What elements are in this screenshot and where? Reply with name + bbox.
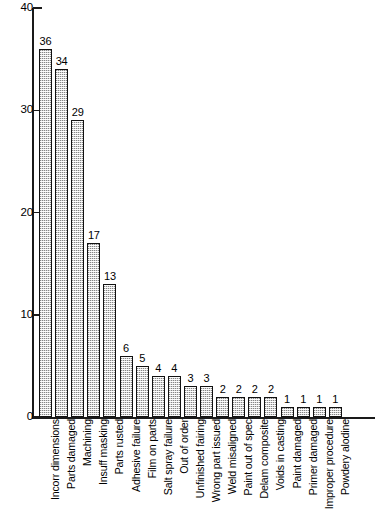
x-axis-category-label-text: Paint out of spec: [243, 419, 254, 498]
x-axis-category-label-text: Incorr dimensions: [50, 419, 61, 503]
bar-group[interactable]: 4: [152, 358, 165, 417]
x-axis-category-label-text: Primer damaged: [308, 419, 319, 498]
bar-value-label: 3: [204, 373, 210, 384]
pareto-bar-chart: 010203040 363429171365443322221111 Incor…: [0, 0, 381, 524]
bar-group[interactable]: 2: [216, 379, 229, 417]
bar[interactable]: [55, 69, 68, 417]
bar-value-label: 4: [155, 363, 161, 374]
x-axis-category-label: Out of order: [179, 419, 190, 477]
x-axis-category-label-text: Wrong part issued: [211, 419, 222, 505]
x-axis-category-label: Film on parts: [147, 419, 158, 481]
x-axis-category-label-text: Parts rusted: [114, 419, 125, 477]
bar-group[interactable]: 36: [39, 31, 52, 417]
x-axis-category-label: Delam composite: [259, 419, 270, 502]
bar[interactable]: [120, 356, 133, 417]
plot-area: 363429171365443322221111: [0, 0, 381, 418]
bar-value-label: 34: [56, 56, 68, 67]
bar[interactable]: [313, 407, 326, 417]
x-axis-category-label: Wrong part issued: [211, 419, 222, 505]
bar-value-label: 2: [268, 384, 274, 395]
x-axis-category-label-text: Delam composite: [259, 419, 270, 502]
bar[interactable]: [281, 407, 294, 417]
bar[interactable]: [71, 120, 84, 417]
bar-value-label: 3: [187, 373, 193, 384]
x-axis-category-label-text: Insuff masking: [98, 419, 109, 488]
bar-value-label: 2: [236, 384, 242, 395]
x-axis-category-label-text: Film on parts: [147, 419, 158, 481]
bar-group[interactable]: 3: [184, 368, 197, 417]
x-axis-category-label: Paint damaged: [292, 419, 303, 491]
x-axis-category-label-text: Improper procedure: [324, 419, 335, 512]
bar-value-label: 1: [284, 394, 290, 405]
x-axis-category-label: Adhesive failure: [131, 419, 142, 495]
bar[interactable]: [136, 366, 149, 417]
x-axis-category-label-text: Parts damaged: [66, 419, 77, 492]
bar-group[interactable]: 1: [313, 389, 326, 417]
bar-group[interactable]: 6: [120, 338, 133, 417]
x-axis-category-label: Voids in casting: [275, 419, 286, 493]
bar-value-label: 2: [252, 384, 258, 395]
x-axis-category-label-text: Powdery alodine: [340, 419, 351, 498]
bar-group[interactable]: 13: [103, 266, 116, 417]
bar[interactable]: [168, 376, 181, 417]
bar-value-label: 1: [316, 394, 322, 405]
bar[interactable]: [248, 397, 261, 417]
bar-group[interactable]: 1: [281, 389, 294, 417]
x-axis-category-label-text: Paint damaged: [292, 419, 303, 491]
x-axis-category-label: Parts damaged: [66, 419, 77, 492]
bar-group[interactable]: 2: [232, 379, 245, 417]
x-axis-category-label-text: Weld misaligned: [227, 419, 238, 497]
x-axis-category-label: Unfinished fairing: [195, 419, 206, 501]
x-axis-category-label: Powdery alodine: [340, 419, 351, 498]
x-axis-category-label-text: Salt spray failure: [163, 419, 174, 498]
bar-group[interactable]: 29: [71, 102, 84, 417]
bar[interactable]: [87, 243, 100, 417]
bar-value-label: 36: [40, 36, 52, 47]
bar-group[interactable]: 4: [168, 358, 181, 417]
bar-group[interactable]: 17: [87, 225, 100, 417]
bar-group[interactable]: 5: [136, 348, 149, 417]
x-axis-category-label: Salt spray failure: [163, 419, 174, 498]
x-axis-category-label: Weld misaligned: [227, 419, 238, 497]
bar-value-label: 6: [123, 343, 129, 354]
x-axis-category-label: Machining: [82, 419, 93, 469]
x-axis-category-label: Insuff masking: [98, 419, 109, 488]
bar[interactable]: [232, 397, 245, 417]
x-axis-category-label-text: Adhesive failure: [131, 419, 142, 495]
bar[interactable]: [103, 284, 116, 417]
bar-group[interactable]: 3: [200, 368, 213, 417]
x-axis-category-label-text: Unfinished fairing: [195, 419, 206, 501]
bar[interactable]: [329, 407, 342, 417]
bar[interactable]: [216, 397, 229, 417]
bar-value-label: 1: [300, 394, 306, 405]
bar-group[interactable]: 2: [248, 379, 261, 417]
bar-value-label: 17: [88, 230, 100, 241]
bar-value-label: 13: [104, 271, 116, 282]
bar[interactable]: [297, 407, 310, 417]
bar[interactable]: [264, 397, 277, 417]
bar[interactable]: [200, 386, 213, 417]
bar-value-label: 5: [139, 353, 145, 364]
bar-group[interactable]: 1: [297, 389, 310, 417]
bar-value-label: 29: [72, 107, 84, 118]
x-axis-category-label-text: Out of order: [179, 419, 190, 477]
bar-value-label: 2: [220, 384, 226, 395]
x-axis-category-label-text: Voids in casting: [275, 419, 286, 493]
bar[interactable]: [39, 49, 52, 417]
x-axis-category-label: Paint out of spec: [243, 419, 254, 498]
bar-value-label: 1: [332, 394, 338, 405]
x-axis-category-label: Parts rusted: [114, 419, 125, 477]
x-axis-category-label: Primer damaged: [308, 419, 319, 498]
bar-value-label: 4: [171, 363, 177, 374]
bar[interactable]: [152, 376, 165, 417]
bar-group[interactable]: 1: [329, 389, 342, 417]
x-axis-category-label: Incorr dimensions: [50, 419, 61, 503]
bar-group[interactable]: 34: [55, 51, 68, 417]
bar-group[interactable]: 2: [264, 379, 277, 417]
bar[interactable]: [184, 386, 197, 417]
x-axis-category-label-text: Machining: [82, 419, 93, 469]
x-axis-category-label: Improper procedure: [324, 419, 335, 512]
x-axis-category-labels: Incorr dimensionsParts damagedMachiningI…: [0, 419, 381, 524]
